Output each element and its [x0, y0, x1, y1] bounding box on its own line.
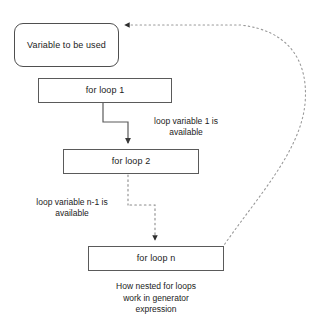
node-for-loop-1-label: for loop 1: [86, 85, 125, 96]
node-for-loop-1: for loop 1: [38, 78, 172, 103]
edge-label-loop-variable-1: loop variable 1 is available: [141, 116, 231, 138]
node-for-loop-2: for loop 2: [63, 149, 199, 174]
node-variable-to-be-used: Variable to be used: [14, 23, 119, 67]
diagram-caption: How nested for loops work in generator e…: [91, 281, 221, 316]
edge-loopn1-to-loopn: [130, 205, 155, 240]
diagram-canvas: Variable to be used for loop 1 for loop …: [0, 0, 322, 335]
node-for-loop-n: for loop n: [88, 246, 224, 271]
edge-label-loop-variable-n-1: loop variable n-1 is available: [22, 197, 122, 219]
edge-loop1-to-loop2: [103, 103, 128, 143]
node-for-loop-2-label: for loop 2: [112, 156, 151, 167]
node-variable-label: Variable to be used: [27, 40, 106, 51]
node-for-loop-n-label: for loop n: [137, 253, 176, 264]
